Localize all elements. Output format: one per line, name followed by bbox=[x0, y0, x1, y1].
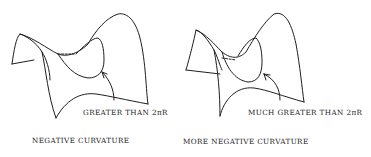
saddle-surface-right bbox=[186, 13, 304, 116]
saddle-surface-left bbox=[12, 14, 148, 118]
diagram-canvas: GREATER THAN 2πR NEGATIVE CURVATURE MUCH… bbox=[0, 0, 371, 157]
annotation-greater-than-2pir: GREATER THAN 2πR bbox=[83, 108, 168, 117]
caption-negative-curvature: NEGATIVE CURVATURE bbox=[32, 136, 129, 145]
saddle-surfaces-drawing bbox=[0, 0, 371, 157]
annotation-much-greater-than-2pir: MUCH GREATER THAN 2πR bbox=[248, 108, 362, 117]
caption-more-negative-curvature: MORE NEGATIVE CURVATURE bbox=[183, 137, 309, 146]
